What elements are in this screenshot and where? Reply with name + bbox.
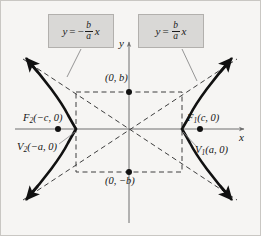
focus-left-subscript: 2: [29, 116, 33, 125]
vertex-right-subscript: 1: [201, 148, 205, 157]
focus-left-dot: [55, 126, 61, 132]
right-asymptote-equation: y = b a x: [156, 21, 187, 42]
y-axis-label: y: [119, 38, 124, 49]
vertex-left-label: V2(−a, 0): [17, 142, 57, 153]
focus-left-coords: (−c, 0): [33, 112, 62, 123]
callout-leader-right: [182, 49, 197, 81]
right-eq-denominator: a: [172, 32, 179, 42]
left-eq-variable: x: [95, 26, 100, 37]
point-top-b-dot: [126, 89, 132, 95]
hyperbola-figure: y = − b a x y = b a x y x (0, b) (0, −b): [0, 0, 261, 236]
right-eq-fraction: b a: [172, 21, 180, 42]
left-eq-numerator: b: [85, 21, 92, 31]
focus-left-label: F2(−c, 0): [23, 113, 62, 124]
left-eq-sign: −: [78, 26, 84, 37]
right-asymptote-callout: y = b a x: [138, 14, 204, 48]
x-axis-label: x: [239, 132, 244, 143]
vertex-left-subscript: 2: [23, 145, 27, 154]
right-eq-variable: x: [182, 26, 187, 37]
right-eq-numerator: b: [172, 21, 179, 31]
point-bottom-b-label: (0, −b): [105, 176, 135, 187]
left-asymptote-callout: y = − b a x: [48, 14, 114, 48]
focus-right-dot: [197, 126, 203, 132]
vertex-right-label: V1(a, 0): [195, 145, 228, 156]
left-eq-fraction: b a: [85, 21, 93, 42]
focus-right-coords: (c, 0): [197, 112, 219, 123]
left-eq-lhs: y: [62, 26, 67, 37]
vertex-left-coords: (−a, 0): [27, 141, 57, 152]
right-eq-lhs: y: [156, 26, 161, 37]
left-eq-equals: =: [69, 26, 75, 37]
point-top-b-label: (0, b): [105, 73, 128, 84]
right-eq-equals: =: [162, 26, 168, 37]
left-asymptote-equation: y = − b a x: [62, 21, 99, 42]
vertex-right-coords: (a, 0): [205, 144, 228, 155]
focus-right-subscript: 1: [193, 116, 197, 125]
left-eq-denominator: a: [85, 32, 92, 42]
callout-leader-left: [67, 49, 81, 77]
focus-right-label: F1(c, 0): [187, 113, 219, 124]
